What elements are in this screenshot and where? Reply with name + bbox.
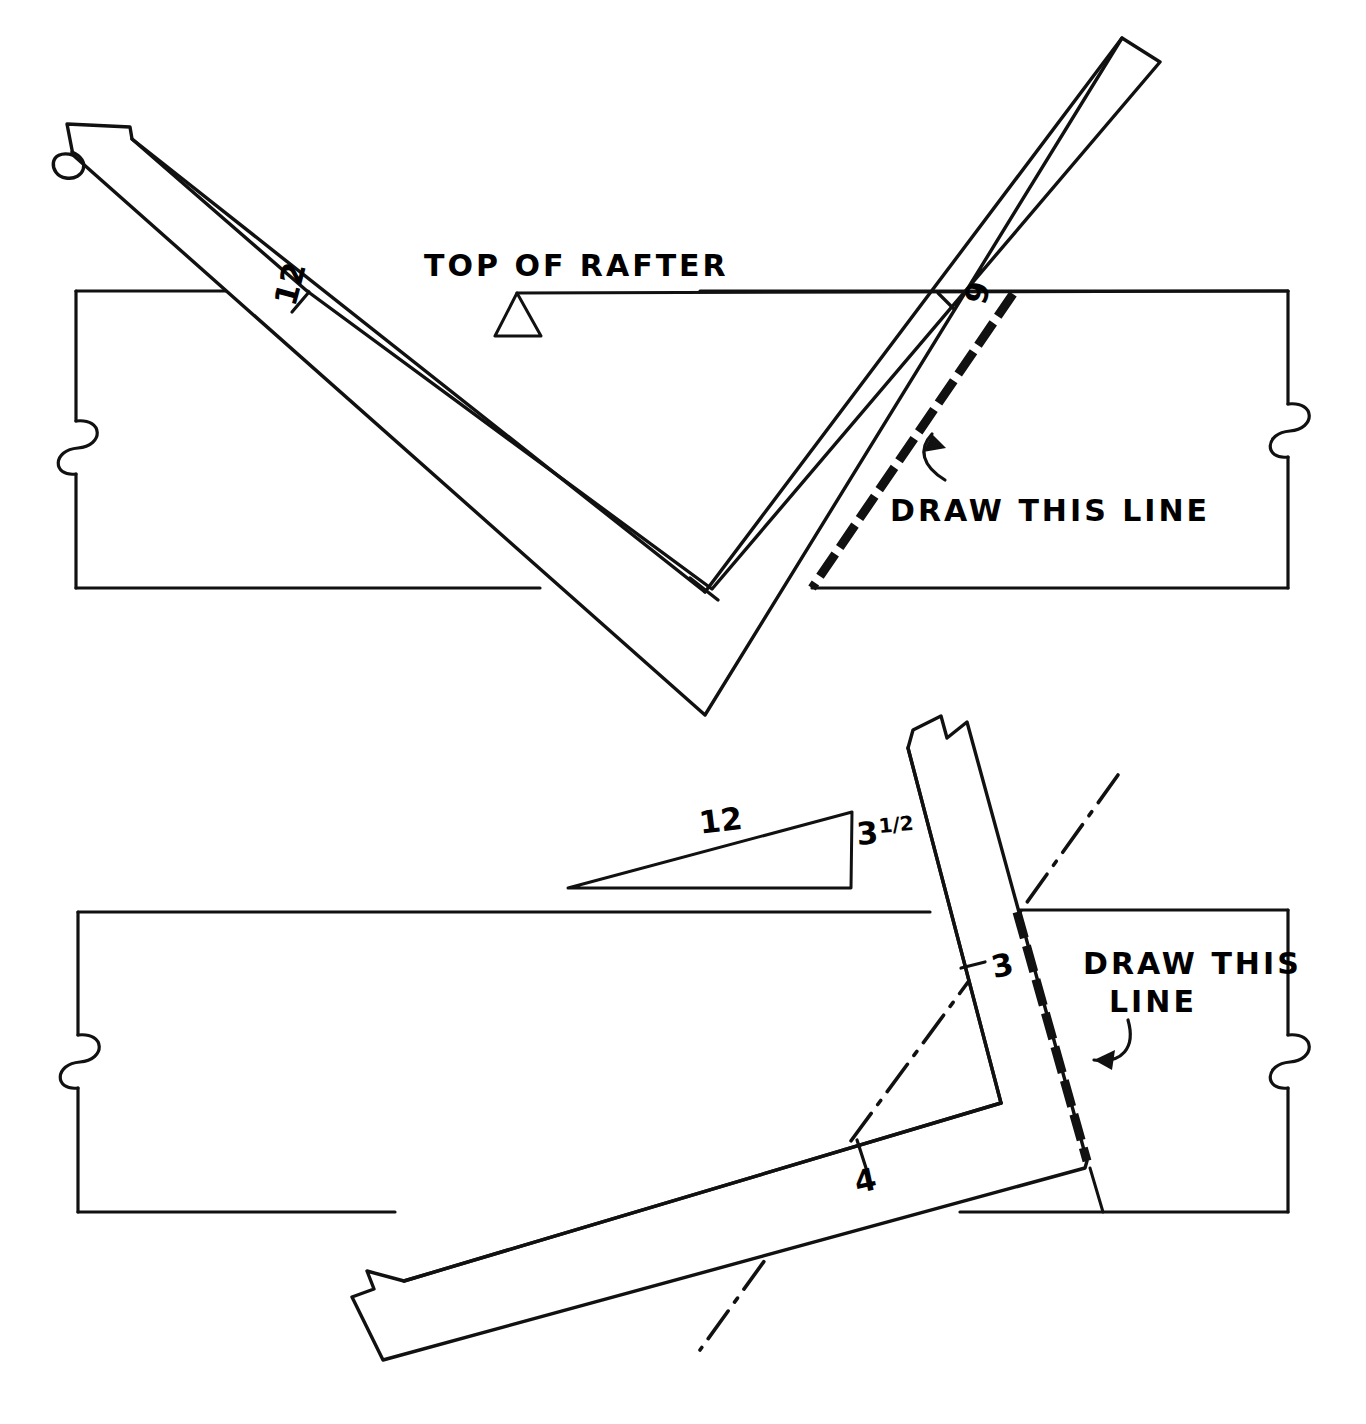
- break-mark-right-lower: [1270, 1035, 1309, 1088]
- break-mark-left-upper: [58, 421, 97, 474]
- top-of-rafter-text: TOP OF RAFTER: [424, 248, 729, 283]
- callout-arrow-head-lower: [1094, 1050, 1115, 1070]
- triangle-rise-whole-text: 3: [855, 814, 880, 852]
- label-draw-this-line-upper: DRAW THIS LINE: [890, 493, 1210, 528]
- tick-9: [938, 293, 954, 309]
- draw-this-line-lower-text-2: LINE: [1109, 983, 1302, 1021]
- break-mark-left-lower: [60, 1035, 99, 1088]
- center-line-upper-segment: [1020, 775, 1118, 912]
- drawing-sheet: TOP OF RAFTER 12 9 DRAW THIS LINE 12 3 1…: [0, 0, 1366, 1424]
- triangle-run-text: 12: [697, 800, 744, 841]
- break-mark-right-upper: [1270, 404, 1309, 457]
- open-triangle-reference-mark: [495, 293, 541, 336]
- square-tongue-inner-edge: [132, 139, 705, 592]
- draw-this-line-upper-text: DRAW THIS LINE: [890, 493, 1210, 528]
- technical-illustration: [0, 0, 1366, 1424]
- square-outer-silhouette: [67, 38, 1160, 715]
- body-9-callout: [938, 293, 954, 309]
- framing-square-upper: [53, 38, 1160, 715]
- upper-figure: [53, 38, 1309, 715]
- label-draw-this-line-lower: DRAW THIS LINE: [1083, 945, 1302, 1020]
- rafter-board-upper: [58, 291, 1309, 588]
- drawn-line-continuation: [1090, 1168, 1103, 1212]
- draw-this-line-lower-text-1: DRAW THIS: [1083, 945, 1302, 983]
- callout-arrow-upper: [923, 434, 946, 480]
- label-triangle-rise: 3 1/2: [855, 811, 916, 852]
- top-of-rafter-line: [517, 291, 1288, 293]
- triangle-rise-fraction-text: 1/2: [877, 811, 914, 838]
- break-mark-square-tongue: [53, 152, 83, 178]
- top-of-rafter-reference: [495, 291, 1288, 336]
- label-triangle-run-12: 12: [697, 800, 744, 841]
- label-top-of-rafter: TOP OF RAFTER: [424, 248, 729, 283]
- lower-figure: [60, 716, 1309, 1360]
- callout-arrow-lower: [1094, 1020, 1130, 1070]
